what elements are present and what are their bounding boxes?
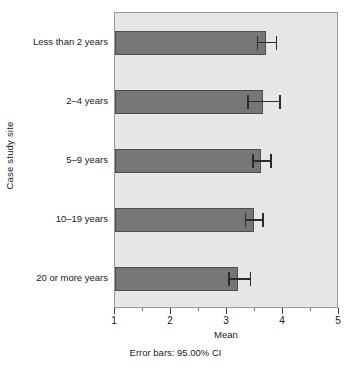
y-axis-tick-label: 2–4 years — [16, 96, 108, 106]
error-bar-line — [257, 42, 276, 44]
error-bar-cap-high — [262, 213, 264, 227]
error-bar-line — [247, 101, 279, 103]
y-axis-tick-label: 20 or more years — [16, 273, 108, 283]
error-bar-cap-low — [245, 213, 247, 227]
y-axis-tick-label: 5–9 years — [16, 155, 108, 165]
error-bar-cap-low — [247, 95, 249, 109]
x-axis-tick-label: 2 — [160, 315, 180, 326]
x-axis-minor-tick — [310, 308, 311, 311]
error-bar-cap-high — [250, 272, 252, 286]
error-bar-line — [252, 160, 270, 162]
y-axis-title-text: Case study site — [5, 121, 16, 189]
x-axis-tick-mark — [114, 308, 115, 314]
y-axis-tick-label: 10–19 years — [16, 214, 108, 224]
x-axis-tick-label: 1 — [104, 315, 124, 326]
error-bar-line — [245, 219, 262, 221]
error-bar — [115, 31, 338, 55]
bar-chart: Case study site Less than 2 years2–4 yea… — [0, 0, 351, 367]
x-axis-title: Mean — [114, 329, 338, 340]
x-axis-minor-tick — [198, 308, 199, 311]
x-axis-tick-mark — [170, 308, 171, 314]
x-axis-minor-tick — [142, 308, 143, 311]
y-axis-tick-label: Less than 2 years — [16, 37, 108, 47]
error-bar-cap-low — [252, 154, 254, 168]
error-bar-footnote: Error bars: 95.00% CI — [0, 347, 351, 358]
error-bar-cap-high — [270, 154, 272, 168]
plot-area — [114, 12, 338, 308]
x-axis-tick-mark — [338, 308, 339, 314]
x-axis-tick-label: 4 — [272, 315, 292, 326]
error-bar-cap-low — [257, 36, 259, 50]
x-axis-tick-mark — [226, 308, 227, 314]
error-bar-line — [228, 278, 250, 280]
error-bar-cap-high — [279, 95, 281, 109]
error-bar — [115, 208, 338, 232]
error-bar-cap-low — [228, 272, 230, 286]
y-axis-category-labels: Less than 2 years2–4 years5–9 years10–19… — [18, 12, 108, 308]
error-bar — [115, 90, 338, 114]
x-axis-tick-label: 5 — [328, 315, 348, 326]
x-axis-tick-mark — [282, 308, 283, 314]
x-axis-tick-label: 3 — [216, 315, 236, 326]
error-bar-cap-high — [276, 36, 278, 50]
error-bar — [115, 267, 338, 291]
x-axis-minor-tick — [254, 308, 255, 311]
error-bar — [115, 149, 338, 173]
